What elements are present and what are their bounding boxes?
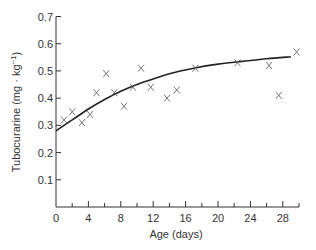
data-point-marker xyxy=(61,116,67,123)
y-axis-title: Tubocurarine (mg · kg−1) xyxy=(9,52,22,173)
data-point-marker xyxy=(276,92,282,99)
data-point-marker xyxy=(69,108,75,115)
data-point-marker xyxy=(266,62,272,69)
y-tick-label: 0.5 xyxy=(38,65,53,77)
data-point-marker xyxy=(87,111,93,118)
data-point-marker xyxy=(79,119,85,126)
data-point-marker xyxy=(138,65,144,72)
y-tick-label: 0.3 xyxy=(38,119,53,131)
y-tick-label: 0.1 xyxy=(38,174,53,186)
data-point-marker xyxy=(94,89,100,96)
fit-curve xyxy=(56,57,291,131)
x-tick-label: 28 xyxy=(277,212,289,224)
chart: 0.10.20.30.40.50.60.70481216202428 Age (… xyxy=(0,0,316,250)
y-tick-label: 0.7 xyxy=(38,11,53,23)
data-points xyxy=(61,48,299,126)
data-point-marker xyxy=(121,103,127,110)
x-tick-label: 24 xyxy=(244,212,256,224)
y-tick-label: 0.4 xyxy=(38,92,53,104)
x-tick-label: 0 xyxy=(53,212,59,224)
x-tick-label: 16 xyxy=(179,212,191,224)
y-tick-label: 0.2 xyxy=(38,147,53,159)
data-point-marker xyxy=(103,70,109,77)
x-tick-label: 12 xyxy=(147,212,159,224)
x-tick-label: 8 xyxy=(118,212,124,224)
data-point-marker xyxy=(174,86,180,93)
data-point-marker xyxy=(164,95,170,102)
fit-curve-path xyxy=(56,57,291,131)
x-tick-label: 4 xyxy=(85,212,91,224)
data-point-marker xyxy=(294,48,300,55)
data-point-marker xyxy=(148,84,154,91)
x-axis-title: Age (days) xyxy=(149,228,202,240)
y-tick-label: 0.6 xyxy=(38,38,53,50)
x-tick-label: 20 xyxy=(212,212,224,224)
